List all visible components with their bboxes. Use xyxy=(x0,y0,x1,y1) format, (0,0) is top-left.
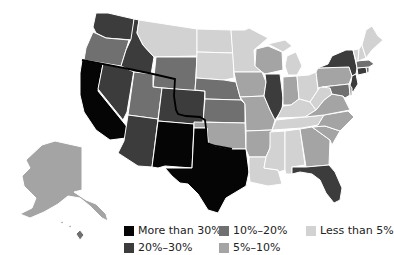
legend-swatch xyxy=(219,226,229,236)
legend-swatch xyxy=(219,243,229,253)
legend-item-10-20: 10%–20% xyxy=(219,224,287,237)
legend-label: 5%–10% xyxy=(233,241,280,254)
state-fl[interactable] xyxy=(292,165,342,203)
legend-item-5-10: 5%–10% xyxy=(219,241,280,254)
legend-item-less-than-5: Less than 5% xyxy=(306,224,394,237)
legend-swatch xyxy=(124,243,134,253)
legend-item-20-30: 20%–30% xyxy=(124,241,192,254)
legend-swatch xyxy=(306,226,316,236)
state-ia[interactable] xyxy=(234,72,266,97)
state-ri[interactable] xyxy=(366,67,369,73)
legend-label: 20%–30% xyxy=(138,241,192,254)
legend-item-more-than-30: More than 30% xyxy=(124,224,222,237)
legend-label: More than 30% xyxy=(138,224,222,237)
legend-label: Less than 5% xyxy=(320,224,394,237)
legend: More than 30% 10%–20% Less than 5% 20%–3… xyxy=(124,224,391,255)
state-co[interactable] xyxy=(158,88,205,125)
state-ak[interactable] xyxy=(20,141,108,221)
state-nm[interactable] xyxy=(152,121,194,168)
state-sd[interactable] xyxy=(196,52,234,80)
legend-swatch xyxy=(124,226,134,236)
state-nd[interactable] xyxy=(197,29,233,53)
state-hi[interactable] xyxy=(60,221,84,240)
state-me[interactable] xyxy=(362,26,383,58)
legend-label: 10%–20% xyxy=(233,224,287,237)
state-ks[interactable] xyxy=(203,99,245,123)
